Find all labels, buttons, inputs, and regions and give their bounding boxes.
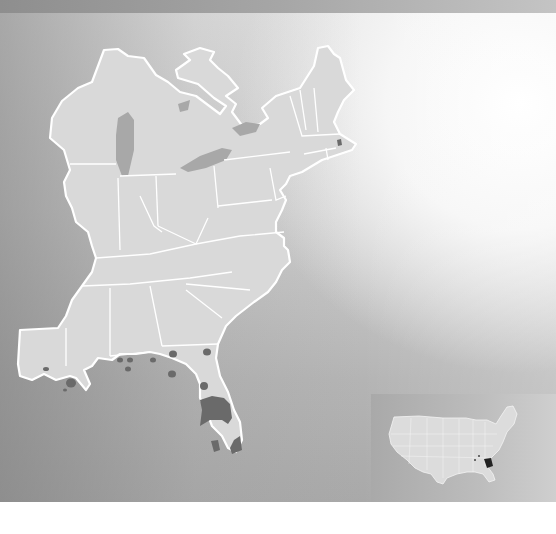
range-dot (127, 358, 133, 363)
page-background (0, 502, 556, 534)
range-dot (203, 349, 211, 356)
range-dot (125, 367, 131, 372)
range-dot (63, 389, 67, 392)
range-south-florida-west (211, 440, 220, 452)
range-dot (43, 367, 49, 371)
range-dot (117, 358, 123, 363)
range-dot (169, 351, 177, 358)
contiguous-us (389, 406, 517, 484)
range-dot (200, 382, 208, 390)
range-dot (168, 371, 176, 378)
inset-locator-map (371, 394, 556, 502)
inset-range-dot (474, 459, 476, 461)
range-dot (150, 358, 156, 363)
range-dot (66, 379, 76, 388)
us-outline-map (371, 394, 556, 502)
inset-range-dot (478, 455, 480, 457)
